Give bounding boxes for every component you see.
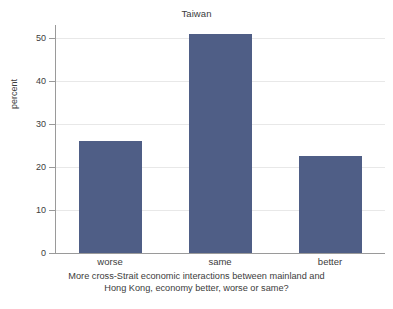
- x-axis-caption-line-1: More cross-Strait economic interactions …: [0, 271, 393, 283]
- y-tick-mark: [49, 253, 55, 254]
- y-tick-mark: [49, 210, 55, 211]
- chart-title: Taiwan: [0, 8, 393, 19]
- y-tick-label: 30: [16, 120, 46, 129]
- plot-inner: [55, 25, 385, 253]
- y-tick-label: 40: [16, 77, 46, 86]
- y-tick-label: 10: [16, 206, 46, 215]
- bar: [79, 141, 142, 253]
- y-tick-label: 0: [16, 249, 46, 258]
- bar: [189, 34, 252, 253]
- y-tick-label: 50: [16, 34, 46, 43]
- x-axis-line: [55, 253, 385, 254]
- x-category-label: same: [180, 256, 260, 267]
- y-tick-mark: [49, 81, 55, 82]
- y-axis-line: [55, 25, 56, 253]
- y-axis-label: percent: [9, 64, 19, 124]
- x-category-label: worse: [70, 256, 150, 267]
- x-axis-caption: More cross-Strait economic interactions …: [0, 271, 393, 294]
- bar: [299, 156, 362, 253]
- bar-chart-figure: Taiwan percent 01020304050 worsesamebett…: [0, 0, 393, 309]
- y-tick-label: 20: [16, 163, 46, 172]
- y-tick-mark: [49, 38, 55, 39]
- y-tick-mark: [49, 124, 55, 125]
- x-category-label: better: [290, 256, 370, 267]
- y-tick-mark: [49, 167, 55, 168]
- x-axis-caption-line-2: Hong Kong, economy better, worse or same…: [0, 283, 393, 295]
- plot-area: [55, 25, 385, 253]
